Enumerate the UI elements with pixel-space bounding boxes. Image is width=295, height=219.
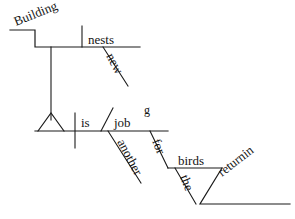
participle-step-line xyxy=(200,168,290,204)
gerund-step-line xyxy=(10,30,140,47)
word-building: Building xyxy=(12,0,60,29)
word-nests: nests xyxy=(88,32,114,47)
word-returning-overflow: g xyxy=(144,103,150,117)
word-another: another xyxy=(114,136,146,178)
word-new: new xyxy=(103,50,127,77)
word-returning: returnin xyxy=(215,142,257,179)
word-job: job xyxy=(113,115,131,130)
diagram-canvas: Building nests new is job g another for … xyxy=(0,0,295,219)
word-is: is xyxy=(81,115,90,130)
word-the: the xyxy=(177,173,197,194)
word-birds: birds xyxy=(178,153,204,168)
predicate-nominative-slant-divider-line xyxy=(101,108,113,131)
sentence-diagram: Building nests new is job g another for … xyxy=(0,0,295,219)
word-for: for xyxy=(149,137,169,157)
